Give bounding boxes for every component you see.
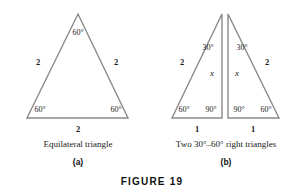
panel-b-right-hypotenuse-label: 2 bbox=[265, 58, 269, 67]
panel-a-base-side-label: 2 bbox=[76, 125, 80, 134]
panel-a-left-side-label: 2 bbox=[36, 58, 40, 67]
panel-b-right-base-label: 1 bbox=[251, 125, 255, 134]
panel-a-caption: Equilateral triangle bbox=[43, 140, 112, 149]
panel-b-left-base-label: 1 bbox=[195, 125, 199, 134]
panel-b-right-apex-angle-label: 30° bbox=[236, 44, 247, 52]
panel-b-left-vertical-side-label: x bbox=[210, 69, 214, 78]
right-right-triangle-shape bbox=[228, 14, 279, 118]
panel-a-bottom-left-angle-label: 60° bbox=[34, 106, 45, 114]
panel-a-bottom-right-angle-label: 60° bbox=[110, 106, 121, 114]
figure-title: FIGURE 19 bbox=[121, 177, 183, 187]
panel-a-apex-angle-label: 60° bbox=[72, 29, 83, 37]
panel-a-letter: (a) bbox=[73, 158, 83, 167]
panel-b-right-vertical-side-label: x bbox=[235, 69, 239, 78]
panel-b-left-bottom-right-angle-label: 90° bbox=[205, 106, 216, 114]
panel-b-left-hypotenuse-label: 2 bbox=[180, 58, 184, 67]
geometry-line-art bbox=[0, 0, 301, 196]
panel-b-right-bottom-left-angle-label: 90° bbox=[233, 106, 244, 114]
figure-19-container: 60° 60° 60° 2 2 2 Equilateral triangle (… bbox=[0, 0, 301, 196]
panel-b-letter: (b) bbox=[221, 158, 232, 167]
panel-b-left-apex-angle-label: 30° bbox=[202, 44, 213, 52]
panel-b-left-bottom-left-angle-label: 60° bbox=[178, 106, 189, 114]
panel-b-right-bottom-right-angle-label: 60° bbox=[260, 106, 271, 114]
panel-a-right-side-label: 2 bbox=[114, 58, 118, 67]
panel-b-caption: Two 30°–60° right triangles bbox=[176, 140, 276, 149]
